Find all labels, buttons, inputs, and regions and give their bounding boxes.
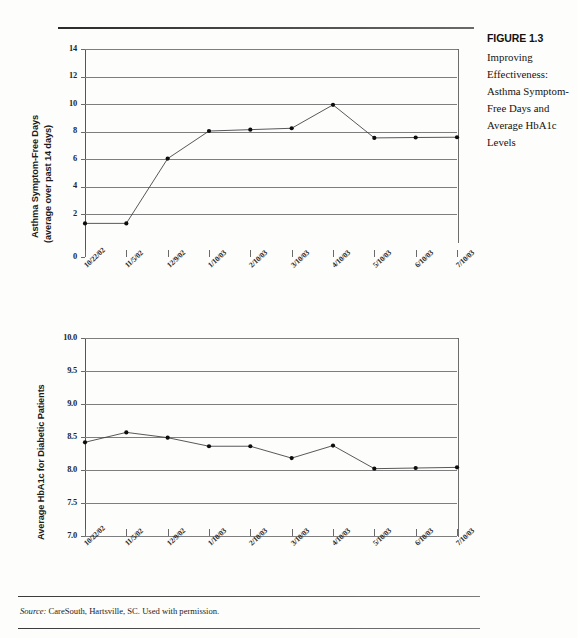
chart2-data-point	[372, 467, 376, 471]
chart2-data-point	[248, 444, 252, 448]
chart2-data-point	[207, 444, 211, 448]
chart2-series-line	[85, 432, 457, 468]
chart2-series	[0, 0, 500, 600]
source-divider-top	[18, 596, 480, 597]
chart2-data-point	[331, 443, 335, 447]
chart2-data-point	[166, 436, 170, 440]
source-divider-bottom	[18, 628, 480, 629]
figure-number: FIGURE 1.3	[487, 32, 575, 44]
chart2-data-point	[455, 465, 459, 469]
source-note: Source: CareSouth, Hartsville, SC. Used …	[20, 606, 219, 616]
chart2-data-point	[83, 440, 87, 444]
figure-caption-text: Improving Effectiveness: Asthma Symptom-…	[487, 49, 575, 152]
figure-caption-block: FIGURE 1.3 Improving Effectiveness: Asth…	[487, 32, 575, 152]
chart-average-hba1c: Average HbA1c for Diabetic Patients 7.07…	[0, 0, 500, 600]
chart2-data-point	[290, 456, 294, 460]
source-label: Source:	[20, 606, 46, 616]
chart2-data-point	[124, 430, 128, 434]
figure-page: FIGURE 1.3 Improving Effectiveness: Asth…	[0, 0, 577, 638]
chart2-data-point	[414, 466, 418, 470]
source-text: CareSouth, Hartsville, SC. Used with per…	[46, 606, 219, 616]
